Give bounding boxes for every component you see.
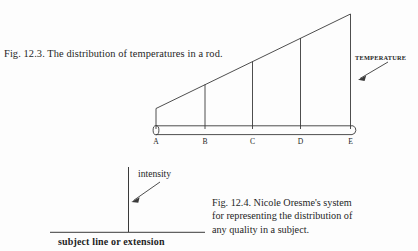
temperature-arrow-shaft bbox=[360, 62, 388, 79]
rod-point-label-c: C bbox=[246, 137, 260, 146]
rod-right-cap bbox=[352, 126, 356, 135]
rod-point-label-e: E bbox=[344, 137, 358, 146]
figure-124-caption-line-1: Fig. 12.4. Nicole Oresme's system bbox=[212, 196, 412, 209]
figure-124-caption-line-2: for representing the distribution of bbox=[212, 209, 412, 222]
intensity-arrow-head bbox=[131, 197, 139, 203]
intensity-label: intensity bbox=[138, 168, 171, 179]
rod-point-label-b: B bbox=[198, 137, 212, 146]
temperature-arrow-head bbox=[358, 76, 366, 81]
figure-123-caption: Fig. 12.3. The distribution of temperatu… bbox=[4, 48, 223, 60]
rod-cylinder bbox=[153, 126, 356, 135]
temperature-axis-label: TEMPERATURE bbox=[355, 54, 406, 61]
intensity-arrow-icon bbox=[131, 182, 160, 203]
rod-point-label-d: D bbox=[294, 137, 308, 146]
intensity-arrow-shaft bbox=[134, 182, 161, 201]
temperature-triangle bbox=[156, 14, 351, 129]
figure-page: Fig. 12.3. The distribution of temperatu… bbox=[0, 0, 418, 251]
rod-point-label-a: A bbox=[149, 137, 163, 146]
figure-124-caption-line-3: any quality in a subject. bbox=[212, 223, 412, 236]
figure-124-caption: Fig. 12.4. Nicole Oresme's system for re… bbox=[212, 196, 412, 236]
subject-line-label: subject line or extension bbox=[58, 236, 165, 248]
hypotenuse-line bbox=[156, 14, 351, 109]
temperature-arrow-icon bbox=[358, 62, 388, 81]
oresme-axes bbox=[50, 167, 205, 232]
